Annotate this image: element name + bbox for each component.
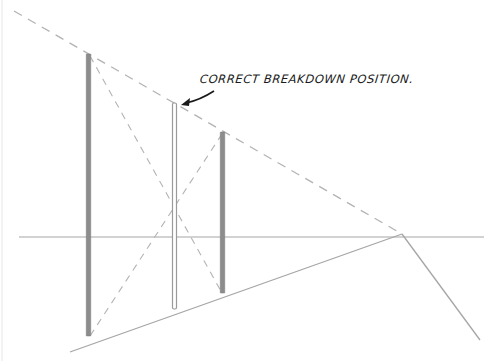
ground-perspective-line	[70, 234, 402, 352]
annotation-label: CORRECT BREAKDOWN POSITION.	[199, 72, 414, 86]
right-diagonal-line	[402, 234, 480, 340]
breakdown-pole	[173, 103, 177, 309]
far-pole	[220, 132, 225, 293]
near-pole	[86, 54, 91, 336]
arrow-icon	[181, 91, 214, 106]
diagram-svg	[0, 0, 496, 361]
top-dashed-perspective-line	[14, 11, 402, 234]
perspective-diagram: CORRECT BREAKDOWN POSITION.	[0, 0, 496, 361]
cross-diagonal-1	[90, 56, 222, 293]
